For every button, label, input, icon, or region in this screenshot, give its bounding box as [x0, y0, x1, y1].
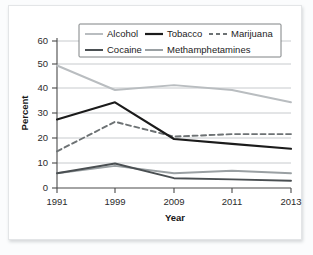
series-line-alcohol [57, 66, 291, 103]
legend-label-methamphetamines: Methamphetamines [167, 44, 251, 55]
y-tick-labels: 60 50 40 30 20 10 0 [37, 35, 48, 193]
x-tick-label-2011: 2011 [222, 196, 242, 207]
gridlines [57, 41, 291, 163]
legend: Alcohol Tobacco Marijuana Cocaine Metham… [79, 24, 281, 57]
x-tick-labels: 1991 1999 2009 2011 2013 [46, 196, 301, 207]
series-lines [57, 66, 291, 181]
y-tick-label-30: 30 [37, 107, 48, 118]
x-tick-label-2013: 2013 [280, 196, 301, 207]
x-tick-label-1999: 1999 [104, 196, 125, 207]
y-tick-label-50: 50 [37, 58, 48, 69]
series-line-tobacco [57, 102, 291, 149]
legend-label-cocaine: Cocaine [107, 44, 142, 55]
y-tick-label-20: 20 [37, 132, 48, 143]
legend-label-marijuana: Marijuana [231, 28, 273, 39]
legend-label-alcohol: Alcohol [107, 28, 138, 39]
y-axis-title: Percent [19, 95, 30, 131]
x-tick-label-1991: 1991 [46, 196, 67, 207]
y-tick-label-40: 40 [37, 82, 48, 93]
y-tick-label-10: 10 [37, 157, 48, 168]
chart-card: 60 50 40 30 20 10 0 1991 1999 2009 2011 … [8, 5, 302, 240]
y-tick-label-0: 0 [43, 182, 48, 193]
line-chart-plot: 60 50 40 30 20 10 0 1991 1999 2009 2011 … [9, 6, 303, 241]
x-tick-label-2009: 2009 [163, 196, 184, 207]
x-axis-title: Year [165, 212, 185, 223]
figure-root: 60 50 40 30 20 10 0 1991 1999 2009 2011 … [0, 0, 313, 255]
y-tick-label-60: 60 [37, 35, 48, 46]
legend-label-tobacco: Tobacco [167, 28, 202, 39]
